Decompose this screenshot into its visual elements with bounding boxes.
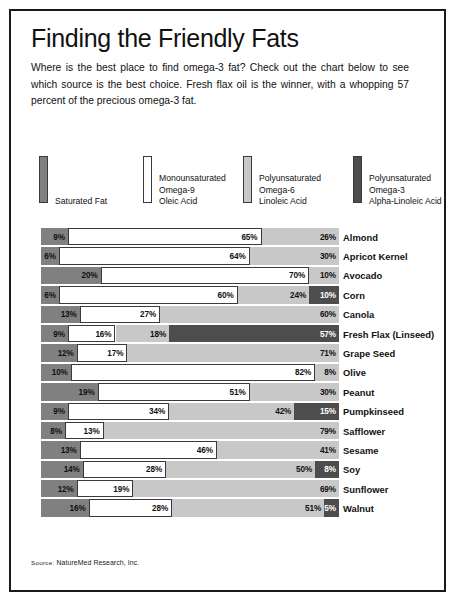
bar-segment-saturated: 16%	[41, 499, 89, 516]
bar-segment-value: 18%	[150, 329, 166, 338]
bar-segment-poly_omega3: 57%	[169, 325, 339, 342]
bar-segment-poly_omega6: 41%	[217, 441, 339, 458]
bar-segment-value: 50%	[296, 465, 312, 474]
legend-swatch-icon-poly_omega6	[243, 156, 252, 203]
stacked-bar: 13%27%60%	[41, 306, 339, 323]
legend-swatch-icon-saturated	[39, 156, 48, 203]
bar-segment-mono_omega9: 82%	[71, 364, 315, 381]
bar-segment-saturated: 12%	[41, 344, 77, 361]
bar-segment-mono_omega9: 17%	[77, 344, 128, 361]
bar-segment-value: 26%	[320, 232, 336, 241]
chart-row: 20%70%10%Avocado	[41, 266, 429, 285]
bar-segment-value: 60%	[320, 310, 336, 319]
chart-row-label: Soy	[343, 464, 360, 475]
legend-line: Polyunsaturated	[259, 173, 321, 185]
bar-segment-poly_omega3: 8%	[315, 461, 339, 478]
bar-segment-value: 30%	[320, 252, 336, 261]
stacked-bar: 14%28%50%8%	[41, 461, 339, 478]
chart-row-label: Apricot Kernel	[343, 251, 408, 262]
bar-segment-value: 71%	[320, 349, 336, 358]
bar-segment-value: 16%	[95, 329, 111, 338]
chart-row-label: Peanut	[343, 386, 374, 397]
legend-line: Linoleic Acid	[259, 196, 321, 208]
legend-label-poly_omega3: PolyunsaturatedOmega-3Alpha-Linoleic Aci…	[369, 173, 442, 208]
bar-segment-value: 19%	[79, 387, 95, 396]
bar-segment-value: 60%	[218, 290, 234, 299]
chart-row: 12%19%69%Sunflower	[41, 479, 429, 498]
bar-segment-poly_omega6: 71%	[127, 344, 339, 361]
bar-segment-value: 10%	[320, 290, 336, 299]
bar-segment-poly_omega6: 18%	[116, 325, 170, 342]
source-label: Source:	[31, 559, 54, 566]
legend-line: Saturated Fat	[55, 196, 107, 208]
bar-segment-saturated: 6%	[41, 247, 59, 264]
bar-segment-value: 82%	[295, 368, 311, 377]
stacked-bar: 10%82%8%	[41, 364, 339, 381]
bar-segment-value: 13%	[61, 310, 77, 319]
bar-segment-saturated: 6%	[41, 286, 59, 303]
bar-segment-value: 34%	[149, 407, 165, 416]
bar-segment-value: 51%	[305, 504, 321, 513]
bar-segment-mono_omega9: 19%	[77, 480, 134, 497]
chart-row-label: Safflower	[343, 425, 385, 436]
bar-segment-value: 9%	[53, 232, 65, 241]
legend-line: Polyunsaturated	[369, 173, 442, 185]
bar-segment-mono_omega9: 28%	[89, 499, 172, 516]
chart-legend: Saturated FatMonounsaturatedOmega-9Oleic…	[31, 156, 441, 218]
chart-row: 6%64%30%Apricot Kernel	[41, 246, 429, 265]
bar-segment-value: 41%	[320, 445, 336, 454]
chart-row-label: Walnut	[343, 503, 374, 514]
chart-row: 10%82%8%Olive	[41, 363, 429, 382]
chart-row-label: Fresh Flax (Linseed)	[343, 328, 434, 339]
chart-row: 9%65%26%Almond	[41, 227, 429, 246]
bar-segment-value: 46%	[197, 445, 213, 454]
bar-segment-poly_omega6: 30%	[250, 247, 339, 264]
page: Finding the Friendly Fats Where is the b…	[0, 0, 457, 603]
intro-paragraph: Where is the best place to find omega-3 …	[31, 60, 409, 110]
bar-segment-poly_omega6: 60%	[160, 306, 339, 323]
bar-segment-mono_omega9: 46%	[80, 441, 217, 458]
chart-row: 12%17%71%Grape Seed	[41, 343, 429, 362]
bar-segment-mono_omega9: 27%	[80, 306, 160, 323]
bar-segment-saturated: 14%	[41, 461, 83, 478]
legend-line: Oleic Acid	[159, 196, 226, 208]
bar-segment-poly_omega6: 50%	[166, 461, 315, 478]
bar-segment-mono_omega9: 65%	[68, 228, 262, 245]
stacked-bar: 20%70%10%	[41, 267, 339, 284]
bar-segment-saturated: 20%	[41, 267, 101, 284]
stacked-bar: 9%65%26%	[41, 228, 339, 245]
page-frame: Finding the Friendly Fats Where is the b…	[9, 9, 446, 592]
legend-label-poly_omega6: PolyunsaturatedOmega-6Linoleic Acid	[259, 173, 321, 208]
bar-segment-value: 6%	[44, 252, 56, 261]
bar-segment-saturated: 13%	[41, 441, 80, 458]
bar-segment-poly_omega6: 30%	[250, 383, 339, 400]
source-note: Source: NatureMed Research, Inc.	[31, 559, 139, 566]
page-title: Finding the Friendly Fats	[31, 25, 429, 51]
bar-segment-value: 51%	[229, 387, 245, 396]
legend-label-mono_omega9: MonounsaturatedOmega-9Oleic Acid	[159, 173, 226, 208]
bar-segment-poly_omega3: 15%	[294, 403, 339, 420]
stacked-bar: 6%60%24%10%	[41, 286, 339, 303]
legend-line: Omega-9	[159, 185, 226, 197]
bar-segment-saturated: 9%	[41, 325, 68, 342]
stacked-bar: 16%28%51%5%	[41, 499, 339, 516]
source-text: NatureMed Research, Inc.	[56, 559, 139, 566]
bar-segment-saturated: 19%	[41, 383, 98, 400]
chart-row-label: Sesame	[343, 444, 378, 455]
bar-segment-value: 30%	[320, 387, 336, 396]
bar-segment-value: 65%	[241, 232, 257, 241]
chart-row-label: Canola	[343, 309, 374, 320]
chart-row-label: Sunflower	[343, 483, 388, 494]
chart-row: 8%13%79%Safflower	[41, 421, 429, 440]
bar-segment-value: 15%	[320, 407, 336, 416]
bar-segment-value: 13%	[83, 426, 99, 435]
bar-segment-poly_omega3: 10%	[309, 286, 339, 303]
bar-segment-value: 14%	[64, 465, 80, 474]
bar-segment-value: 8%	[324, 465, 336, 474]
bar-segment-value: 6%	[44, 290, 56, 299]
bar-segment-value: 19%	[113, 484, 129, 493]
bar-segment-value: 12%	[58, 484, 74, 493]
bar-segment-value: 20%	[82, 271, 98, 280]
chart-row: 9%34%42%15%Pumpkinseed	[41, 402, 429, 421]
bar-segment-value: 64%	[230, 252, 246, 261]
